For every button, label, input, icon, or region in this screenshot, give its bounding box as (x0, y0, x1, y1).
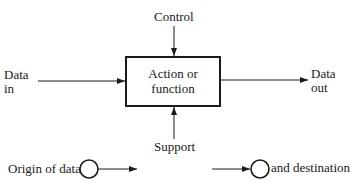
support-label: Support (154, 140, 195, 154)
data-in-label: Data in (4, 68, 29, 96)
control-label: Control (154, 10, 194, 24)
data-out-label: Data out (311, 67, 336, 95)
data-out-line1: Data (311, 67, 336, 81)
function-box-label: Action or function (126, 66, 220, 96)
data-out-line2: out (311, 81, 336, 95)
function-label-line1: Action or (126, 66, 220, 81)
function-label-line2: function (126, 81, 220, 96)
origin-label: Origin of data (8, 162, 81, 176)
destination-circle-icon (251, 160, 269, 178)
data-in-line1: Data (4, 68, 29, 82)
destination-label: and destination (271, 161, 350, 175)
data-in-line2: in (4, 82, 29, 96)
origin-circle-icon (80, 160, 98, 178)
